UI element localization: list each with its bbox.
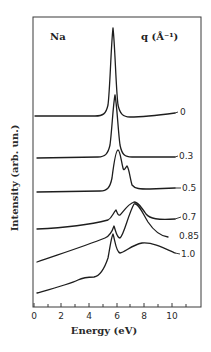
series-labels: 0 0.3 0.5 0.7 0.85 1.0 (179, 107, 199, 259)
x-tick-label: 2 (58, 311, 64, 321)
series-label-q-0.85: 0.85 (179, 231, 199, 241)
x-tick-label: 6 (114, 311, 120, 321)
chart-title: Na (50, 31, 66, 42)
series-q-1.0 (37, 234, 175, 293)
series-label-q-0: 0 (180, 107, 186, 117)
x-axis-label: Energy (eV) (71, 325, 137, 336)
x-tick-label: 4 (86, 311, 92, 321)
series-q-0.3 (37, 95, 175, 158)
y-axis-label: Intensity (arb. un.) (9, 125, 20, 232)
series-label-q-1.0: 1.0 (181, 249, 196, 259)
series-q-0.85 (37, 204, 168, 262)
x-tick-label: 8 (141, 311, 147, 321)
x-tick-label: 0 (31, 311, 37, 321)
x-axis-ticks (34, 303, 186, 307)
series-q-0.5 (37, 150, 175, 192)
series-q-0.7 (37, 202, 175, 229)
legend-title: q (Å⁻¹) (141, 31, 178, 42)
series-label-q-0.5: 0.5 (182, 183, 196, 193)
x-tick-label: 10 (166, 311, 178, 321)
x-axis-tick-labels: 0 2 4 6 8 10 (31, 311, 178, 321)
plot-frame (33, 17, 201, 307)
spectra-chart: 0 2 4 6 8 10 Energy (eV) Intensity (arb.… (0, 0, 211, 352)
series-label-q-0.7: 0.7 (182, 212, 196, 222)
series-label-q-0.3: 0.3 (179, 151, 193, 161)
spectra-curves (35, 28, 175, 293)
